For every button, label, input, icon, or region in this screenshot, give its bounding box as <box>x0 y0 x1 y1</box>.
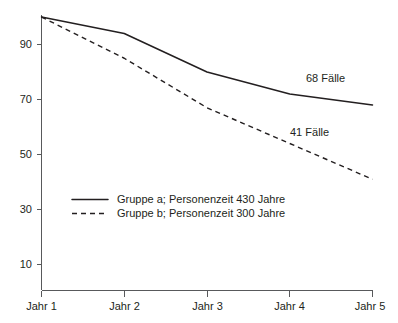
chart-container: 90 70 50 30 10 Jahr 1 Jahr 2 Jahr 3 Jahr… <box>0 0 398 323</box>
y-tick-label-10: 10 <box>20 258 32 270</box>
x-tick-label-jahr-3: Jahr 3 <box>192 300 223 312</box>
y-tick-label-50: 50 <box>20 148 32 160</box>
legend-label-gruppe-b: Gruppe b; Personenzeit 300 Jahre <box>117 207 285 219</box>
x-tick-label-jahr-2: Jahr 2 <box>109 300 140 312</box>
y-tick-label-30: 30 <box>20 203 32 215</box>
x-tick-label-jahr-5: Jahr 5 <box>355 300 386 312</box>
x-tick-label-jahr-4: Jahr 4 <box>274 300 305 312</box>
y-tick-label-70: 70 <box>20 93 32 105</box>
x-tick-label-jahr-1: Jahr 1 <box>26 300 57 312</box>
line-chart: 90 70 50 30 10 Jahr 1 Jahr 2 Jahr 3 Jahr… <box>0 0 398 323</box>
series-line-gruppe-a <box>42 17 373 105</box>
y-tick-label-90: 90 <box>20 38 32 50</box>
legend: Gruppe a; Personenzeit 430 Jahre Gruppe … <box>72 193 285 219</box>
annotation-68-falle: 68 Fälle <box>306 72 345 84</box>
annotation-41-falle: 41 Fälle <box>290 126 329 138</box>
legend-label-gruppe-a: Gruppe a; Personenzeit 430 Jahre <box>117 193 285 205</box>
